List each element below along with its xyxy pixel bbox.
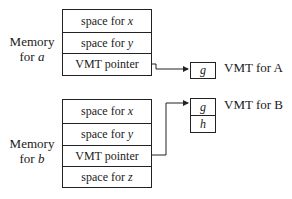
cell-space-for-z: space for z [62, 166, 152, 188]
arrow-b-to-vmt-b [151, 103, 188, 155]
vmt-a-label: VMT for A [224, 60, 283, 75]
memory-b-label-line1: Memory [2, 136, 62, 151]
memory-a-label: Memory for a [2, 34, 62, 64]
cell-space-for-x: space for x [62, 99, 152, 124]
memory-b-label-line2: for b [2, 151, 62, 166]
memory-a-label-line2: for a [2, 49, 62, 64]
arrow-a-to-vmt-a [151, 64, 188, 69]
cell-space-for-y: space for y [62, 123, 152, 146]
vmt-b-label: VMT for B [224, 97, 283, 112]
cell-space-for-y: space for y [62, 32, 152, 54]
vmt-b-entry-g: g [190, 98, 216, 116]
vmt-b-entry-h: h [190, 115, 216, 133]
cell-vmt-pointer: VMT pointer [62, 145, 152, 167]
memory-b-label: Memory for b [2, 136, 62, 166]
cell-space-for-x: space for x [62, 9, 152, 33]
memory-a-label-line1: Memory [2, 34, 62, 49]
cell-vmt-pointer: VMT pointer [62, 53, 152, 76]
vmt-a-entry-g: g [190, 62, 216, 79]
